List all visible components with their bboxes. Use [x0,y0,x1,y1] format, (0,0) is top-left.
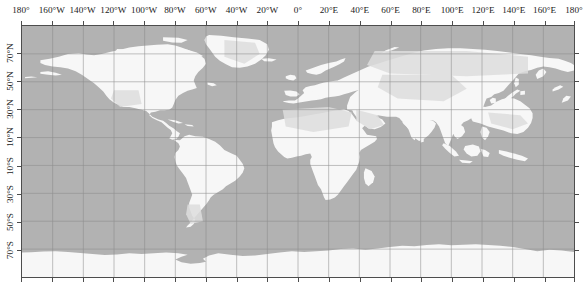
map-plot-area[interactable] [21,25,575,278]
lon-tickmark-bottom--40 [237,278,238,282]
lon-tickmark-bottom--180 [21,278,22,282]
lat-tick-label--70: 70°S [5,241,16,259]
lat-tick-label--50: 50°S [5,213,16,231]
lat-tick-label--10: 10°S [5,157,16,175]
lon-tick-label-180: 180° [565,5,582,16]
lon-tickmark-bottom--20 [267,278,268,282]
lon-tickmark-bottom-40 [360,278,361,282]
lon-tickmark-bottom-120 [483,278,484,282]
lat-tickmark-right--50 [575,222,579,223]
lat-tickmark-right--10 [575,166,579,167]
lon-tick-label-120: 120°E [471,5,494,16]
lat-tickmark-right--70 [575,250,579,251]
world-map-svg [22,26,574,277]
lat-tick-label-50: 50°N [5,71,16,91]
lon-tick-label-20: 20°E [320,5,338,16]
lon-tickmark-bottom-60 [391,278,392,282]
lon-tickmark-bottom--60 [206,278,207,282]
lon-tick-label-160: 160°E [533,5,556,16]
lon-tickmark-bottom--80 [175,278,176,282]
lat-tickmark-right-50 [575,81,579,82]
lon-tick-label--40: 40°W [226,5,248,16]
lat-tickmark-right-10 [575,137,579,138]
lon-tick-label-40: 40°E [351,5,369,16]
lat-tickmark-right--30 [575,194,579,195]
lon-tickmark-bottom--100 [144,278,145,282]
lon-tickmark-bottom-140 [514,278,515,282]
lon-tickmark-bottom-0 [298,278,299,282]
lat-tick-label-70: 70°N [5,43,16,63]
lat-tick-label-30: 30°N [5,100,16,120]
shading-patch-siberia [367,51,528,76]
lon-tick-label--80: 80°W [164,5,186,16]
lon-tick-label--20: 20°W [257,5,279,16]
lon-tick-label-0: 0° [294,5,302,16]
lon-tick-label-140: 140°E [502,5,525,16]
lon-tickmark-bottom-180 [574,278,575,282]
lon-tickmark-bottom-160 [545,278,546,282]
lon-tick-label--100: 100°W [131,5,157,16]
lat-tick-label-10: 10°N [5,128,16,148]
lon-tickmark-bottom-80 [421,278,422,282]
landmass-tasmania [520,91,525,95]
lon-tickmark-bottom-20 [329,278,330,282]
lat-tickmark-right-70 [575,53,579,54]
lon-tickmark-bottom--160 [52,278,53,282]
lon-tick-label-100: 100°E [441,5,464,16]
lon-tick-label--120: 120°W [100,5,126,16]
world-map-figure: 180°160°W140°W120°W100°W80°W60°W40°W20°W… [0,0,586,293]
lat-tick-label--30: 30°S [5,185,16,203]
lon-tickmark-bottom--120 [113,278,114,282]
lon-tick-label--160: 160°W [39,5,65,16]
lat-tickmark-right-30 [575,109,579,110]
lon-tick-label--60: 60°W [195,5,217,16]
longitude-axis: 180°160°W140°W120°W100°W80°W60°W40°W20°W… [0,0,586,25]
lon-tick-label-60: 60°E [381,5,399,16]
lon-tick-label-80: 80°E [412,5,430,16]
lon-tickmark-bottom--140 [83,278,84,282]
lon-tick-label--140: 140°W [70,5,96,16]
lon-tickmark-bottom-100 [452,278,453,282]
